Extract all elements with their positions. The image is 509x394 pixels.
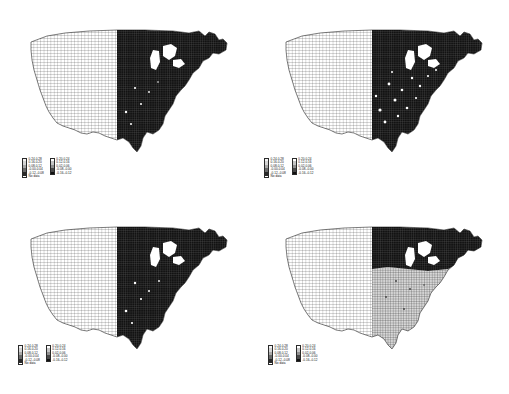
legend-item: -0.16--0.12 bbox=[50, 172, 72, 175]
legend-item-no-data: No data bbox=[22, 175, 44, 178]
legend-column-right: 0.20-0.24 0.12-0.16 0.02-0.06 -0.08--0.0… bbox=[292, 158, 314, 178]
us-county-map-svg bbox=[268, 20, 496, 170]
legend-swatch bbox=[46, 359, 51, 362]
legend-label-no-data: No data bbox=[25, 362, 36, 365]
legend-label: -0.16--0.12 bbox=[52, 359, 67, 362]
legend-bottom-left: 0.24-0.28 0.16-0.20 0.08-0.12 -0.00-0.04… bbox=[18, 345, 67, 365]
map-panel-bottom-right: 0.24-0.28 0.16-0.20 0.08-0.12 -0.00-0.04… bbox=[254, 197, 509, 394]
map-panel-top-left: 0.24-0.28 0.16-0.20 0.08-0.12 -0.00-0.04… bbox=[0, 0, 254, 197]
legend-column-right: 0.20-0.24 0.12-0.16 0.02-0.06 -0.08--0.0… bbox=[46, 345, 68, 365]
legend-label-no-data: No data bbox=[275, 362, 286, 365]
legend-top-right: 0.24-0.28 0.16-0.20 0.08-0.12 -0.00-0.04… bbox=[264, 158, 313, 178]
legend-item-no-data: No data bbox=[18, 362, 40, 365]
legend-column-right: 0.20-0.24 0.12-0.16 0.02-0.06 -0.08--0.0… bbox=[296, 345, 318, 365]
legend-top-left: 0.24-0.28 0.16-0.20 0.08-0.12 -0.00-0.04… bbox=[22, 158, 71, 178]
legend-column-left: 0.24-0.28 0.16-0.20 0.08-0.12 -0.00-0.04… bbox=[268, 345, 290, 365]
map-panel-bottom-left: 0.24-0.28 0.16-0.20 0.08-0.12 -0.00-0.04… bbox=[0, 197, 254, 394]
map-panel-top-right: 0.24-0.28 0.16-0.20 0.08-0.12 -0.00-0.04… bbox=[254, 0, 509, 197]
legend-swatch-no-data bbox=[268, 362, 273, 365]
legend-label-no-data: No data bbox=[29, 175, 40, 178]
legend-item: -0.16--0.12 bbox=[296, 359, 318, 362]
legend-swatch-no-data bbox=[18, 362, 23, 365]
map-grid: 0.24-0.28 0.16-0.20 0.08-0.12 -0.00-0.04… bbox=[0, 0, 509, 394]
legend-item-no-data: No data bbox=[264, 175, 286, 178]
legend-swatch bbox=[292, 172, 297, 175]
legend-column-left: 0.24-0.28 0.16-0.20 0.08-0.12 -0.00-0.04… bbox=[22, 158, 44, 178]
legend-item-no-data: No data bbox=[268, 362, 290, 365]
legend-column-left: 0.24-0.28 0.16-0.20 0.08-0.12 -0.00-0.04… bbox=[264, 158, 286, 178]
legend-swatch-no-data bbox=[264, 175, 269, 178]
legend-bottom-right: 0.24-0.28 0.16-0.20 0.08-0.12 -0.00-0.04… bbox=[268, 345, 317, 365]
legend-label: -0.16--0.12 bbox=[298, 172, 313, 175]
legend-item: -0.16--0.12 bbox=[46, 359, 68, 362]
legend-label-no-data: No data bbox=[271, 175, 282, 178]
legend-column-left: 0.24-0.28 0.16-0.20 0.08-0.12 -0.00-0.04… bbox=[18, 345, 40, 365]
legend-label: -0.16--0.12 bbox=[302, 359, 317, 362]
legend-item: -0.16--0.12 bbox=[292, 172, 314, 175]
us-county-map-svg bbox=[13, 20, 241, 170]
legend-swatch-no-data bbox=[22, 175, 27, 178]
legend-swatch bbox=[50, 172, 55, 175]
legend-column-right: 0.20-0.24 0.12-0.16 0.02-0.06 -0.08--0.0… bbox=[50, 158, 72, 178]
legend-label: -0.16--0.12 bbox=[56, 172, 71, 175]
legend-swatch bbox=[296, 359, 301, 362]
